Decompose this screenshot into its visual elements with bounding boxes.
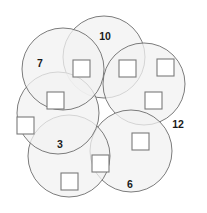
box-top-left[interactable] <box>73 60 90 77</box>
box-mid-right[interactable] <box>145 92 162 109</box>
label-6: 6 <box>127 178 133 190</box>
label-12: 12 <box>172 118 184 130</box>
puzzle-figure: 1071236 <box>0 0 207 213</box>
box-bottom-left[interactable] <box>61 173 78 190</box>
overlapping-circles-diagram: 1071236 <box>0 0 207 213</box>
label-7: 7 <box>37 57 43 69</box>
box-top-right[interactable] <box>119 60 136 77</box>
label-3: 3 <box>57 138 63 150</box>
box-bottom-mid[interactable] <box>92 155 109 172</box>
box-far-left[interactable] <box>17 117 34 134</box>
box-far-right[interactable] <box>157 59 174 76</box>
box-right-lower[interactable] <box>132 133 149 150</box>
box-mid-left[interactable] <box>47 92 64 109</box>
label-10: 10 <box>99 30 111 42</box>
